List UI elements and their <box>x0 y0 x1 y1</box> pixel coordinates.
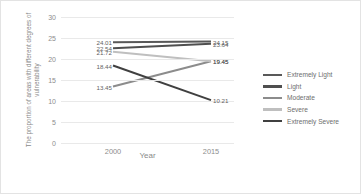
gridline: 15 <box>61 80 234 81</box>
y-axis-title-wrap: The proportion of areas with different d… <box>3 1 29 161</box>
y-axis-tick-label: 5 <box>52 119 56 126</box>
legend-swatch-icon <box>263 120 282 123</box>
gridline: 5 <box>61 122 234 123</box>
legend-label: Extremely Light <box>287 71 332 78</box>
y-axis-tick-label: 15 <box>48 77 56 84</box>
gridline: 20 <box>61 59 234 60</box>
legend-item-severe[interactable]: Severe <box>263 104 339 116</box>
legend-item-moderate[interactable]: Moderate <box>263 92 339 104</box>
legend-label: Light <box>287 83 301 90</box>
legend-swatch-icon <box>263 85 282 88</box>
legend-label: Extremely Severe <box>287 118 339 125</box>
chart-frame: The proportion of areas with different d… <box>0 0 361 194</box>
legend-item-extremely-severe[interactable]: Extremely Severe <box>263 115 339 127</box>
plot-area: 0510152025302000201524.0124.1522.5423.64… <box>61 17 234 143</box>
y-axis-tick-label: 0 <box>52 140 56 147</box>
gridline: 30 <box>61 17 234 18</box>
y-axis-title: The proportion of areas with different d… <box>25 7 40 153</box>
legend-item-light[interactable]: Light <box>263 81 339 93</box>
gridline: 0 <box>61 143 234 144</box>
data-label: 21.72 <box>88 48 112 55</box>
series-line <box>113 42 211 43</box>
data-label: 23.64 <box>213 40 228 47</box>
data-label: 19.45 <box>213 58 228 65</box>
legend-swatch-icon <box>263 108 282 111</box>
legend-label: Severe <box>287 106 308 113</box>
legend-label: Moderate <box>287 94 315 101</box>
legend-swatch-icon <box>263 74 282 77</box>
gridline: 25 <box>61 38 234 39</box>
y-axis-tick-label: 25 <box>48 35 56 42</box>
series-line <box>113 44 211 49</box>
data-label: 13.45 <box>88 83 112 90</box>
legend-swatch-icon <box>263 97 282 100</box>
chart-legend: Extremely LightLightModerateSevereExtrem… <box>263 69 339 127</box>
y-axis-tick-label: 20 <box>48 56 56 63</box>
legend-item-extremely-light[interactable]: Extremely Light <box>263 69 339 81</box>
gridline: 10 <box>61 101 234 102</box>
x-axis-title: Year <box>61 151 234 160</box>
data-label: 10.21 <box>213 97 228 104</box>
y-axis-tick-label: 30 <box>48 14 56 21</box>
y-axis-tick-label: 10 <box>48 98 56 105</box>
data-label: 18.44 <box>88 62 112 69</box>
